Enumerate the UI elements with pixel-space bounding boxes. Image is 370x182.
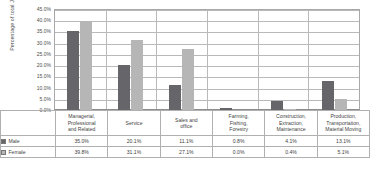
bar-groups	[54, 9, 360, 110]
plot-wrap	[54, 9, 360, 110]
legend-swatch-icon	[1, 139, 6, 144]
bar-male	[67, 31, 79, 110]
x-axis-category-label: Managerial,Professionaland Related	[56, 111, 108, 136]
table-corner-cell	[1, 111, 56, 136]
y-axis-tick-label: 25.0%	[37, 51, 51, 56]
table-row: Male35.0%20.1%11.1%0.8%4.1%13.1%	[1, 136, 370, 147]
data-value-cell: 0.4%	[265, 147, 317, 158]
data-value-cell: 39.8%	[56, 147, 108, 158]
legend-label: Male	[9, 138, 20, 144]
bar-group	[54, 9, 105, 110]
bar-group	[105, 9, 156, 110]
data-value-cell: 35.0%	[56, 136, 108, 147]
data-value-cell: 20.1%	[108, 136, 160, 147]
data-value-cell: 0.0%	[212, 147, 264, 158]
bar-male	[322, 81, 334, 110]
x-axis-category-label: Production,Transportation,Material Movin…	[317, 111, 369, 136]
bar-group	[258, 9, 309, 110]
y-axis-tick-label: 35.0%	[37, 29, 51, 34]
y-axis-tick-label: 10.0%	[37, 85, 51, 90]
data-value-cell: 5.1%	[317, 147, 369, 158]
y-axis-tick-label: 15.0%	[37, 74, 51, 79]
bar-female	[182, 49, 194, 110]
x-axis-category-label: Service	[108, 111, 160, 136]
bar-group	[156, 9, 207, 110]
y-axis-tick-labels: 45.0%40.0%35.0%30.0%25.0%20.0%15.0%10.0%…	[22, 9, 52, 110]
data-value-cell: 27.1%	[160, 147, 212, 158]
legend-item-male[interactable]: Male	[1, 136, 56, 147]
y-axis-tick-label: 5.0%	[40, 96, 51, 101]
y-axis-tick-label: 30.0%	[37, 40, 51, 45]
x-axis-category-label: Farming,Fishing,Forestry	[212, 111, 264, 136]
table-row: Female39.8%31.1%27.1%0.0%0.4%5.1%	[1, 147, 370, 158]
bar-female	[335, 99, 347, 110]
data-table-wrap: Managerial,Professionaland RelatedServic…	[0, 110, 362, 158]
bar-male	[169, 85, 181, 110]
data-value-cell: 0.8%	[212, 136, 264, 147]
y-axis-title: Percentage of total Jobs	[9, 0, 15, 71]
y-axis-tick-label: 40.0%	[37, 18, 51, 23]
data-value-cell: 4.1%	[265, 136, 317, 147]
x-axis-category-label: Sales andoffice	[160, 111, 212, 136]
data-value-cell: 13.1%	[317, 136, 369, 147]
bar-male	[118, 65, 130, 110]
bar-group	[207, 9, 258, 110]
y-axis-tick-label: 20.0%	[37, 63, 51, 68]
table-row: Managerial,Professionaland RelatedServic…	[1, 111, 370, 136]
data-table: Managerial,Professionaland RelatedServic…	[0, 110, 370, 158]
data-value-cell: 11.1%	[160, 136, 212, 147]
x-axis-category-label: Construction,Extraction,Maintenance	[265, 111, 317, 136]
legend-item-female[interactable]: Female	[1, 147, 56, 158]
data-table-body: Managerial,Professionaland RelatedServic…	[1, 111, 370, 158]
y-axis-tick-label: 45.0%	[37, 7, 51, 12]
bar-group	[309, 9, 360, 110]
bar-female	[80, 21, 92, 110]
bar-female	[131, 40, 143, 110]
bar-male	[271, 101, 283, 110]
data-value-cell: 31.1%	[108, 147, 160, 158]
legend-label: Female	[9, 149, 26, 155]
legend-swatch-icon	[1, 150, 6, 155]
